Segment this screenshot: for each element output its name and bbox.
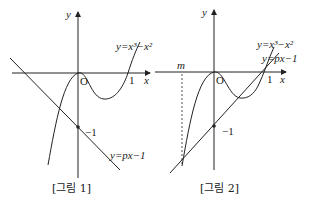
line-px-1 <box>170 53 279 173</box>
figure-1: y x O 1 −1 y=x³−x² y=px−1 [그림 1] <box>10 8 153 195</box>
x-tick-label: 1 <box>267 73 273 85</box>
cubic-curve <box>48 42 140 165</box>
figure-2: y x O 1 −1 m y=x³−x² y=px−1 [그림 2] <box>155 6 298 195</box>
x-axis-label: x <box>143 74 149 86</box>
m-label: m <box>177 59 185 71</box>
y-axis-label: y <box>65 8 71 20</box>
origin-label: O <box>80 75 88 87</box>
line-label: y=px−1 <box>261 52 298 64</box>
curve-label: y=x³−x² <box>256 38 294 50</box>
line-px-1 <box>10 58 120 170</box>
x-axis-label: x <box>279 73 285 85</box>
point-minus-1 <box>76 125 80 129</box>
cubic-curve <box>182 47 274 166</box>
x-tick-label: 1 <box>129 74 135 86</box>
origin-label: O <box>216 74 224 86</box>
diagram-canvas: y x O 1 −1 y=x³−x² y=px−1 [그림 1] y x O 1… <box>0 0 310 202</box>
figure-caption: [그림 1] <box>52 182 91 195</box>
figure-caption: [그림 2] <box>200 182 239 195</box>
line-label: y=px−1 <box>109 149 146 161</box>
y-tick-label: −1 <box>222 125 234 137</box>
curve-label: y=x³−x² <box>115 40 153 52</box>
y-axis-label: y <box>201 6 207 18</box>
y-tick-label: −1 <box>85 126 97 138</box>
point-minus-1 <box>212 124 216 128</box>
